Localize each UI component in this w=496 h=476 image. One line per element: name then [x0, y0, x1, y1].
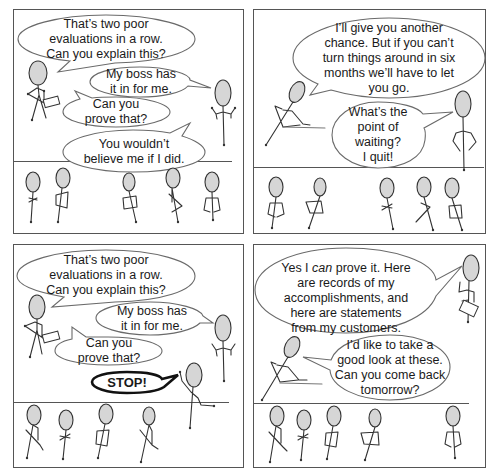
bubble-text-employee-wouldnt: You wouldn’t believe me if I did.	[70, 133, 198, 171]
stick-figure-employee	[211, 80, 236, 146]
bubble-text-manager-prove: Can you prove that?	[70, 97, 162, 127]
bubble-text-employee-can-prove: Yes I can prove it. Here are records of …	[262, 251, 430, 331]
audience	[26, 404, 158, 463]
bubble-text-manager-another-chance: I’ll give you another chance. But if you…	[300, 20, 478, 96]
audience	[268, 177, 463, 231]
bubble-text-stop: STOP!	[94, 372, 160, 393]
bubble-text-manager-evaluations: That’s two poor evaluations in a row. Ca…	[30, 251, 182, 299]
bubble-text-employee-boss: My boss has it in for me.	[96, 67, 186, 97]
stick-figure-interrupter	[179, 363, 215, 429]
stick-figure-employee	[212, 315, 235, 382]
bubble-text-emphasis: can	[312, 261, 332, 275]
audience	[269, 406, 461, 463]
bubble-text-manager-prove: Can you prove that?	[62, 337, 156, 365]
bubble-text-part: Yes I	[281, 261, 312, 275]
bubble-text-employee-quit: What’s the point of waiting? I quit!	[336, 104, 420, 166]
bubble-text-employee-boss: My boss has it in for me.	[104, 303, 200, 334]
stick-figure-manager	[261, 334, 322, 401]
audience	[26, 168, 220, 223]
stick-figure-manager	[27, 61, 60, 121]
bubble-text-manager-evaluations: That’s two poor evaluations in a row. Ca…	[30, 16, 182, 62]
stick-figure-employee	[459, 255, 479, 323]
bubble-text-manager-tomorrow: I’d like to take a good look at these. C…	[334, 337, 446, 399]
stick-figure-employee	[453, 91, 476, 171]
